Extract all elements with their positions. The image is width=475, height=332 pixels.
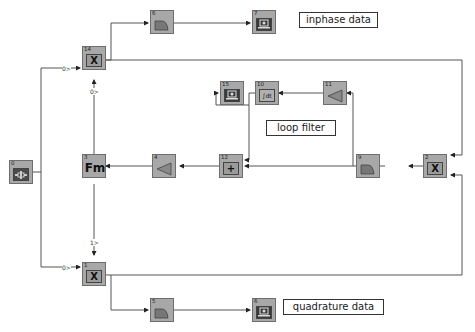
block-7-lowpass-filter[interactable]: 6 bbox=[150, 10, 174, 34]
port-label-1-top: 1> bbox=[90, 239, 99, 246]
integrator-icon: ∫dt bbox=[259, 89, 275, 102]
block-8-scope-sink[interactable]: 7 bbox=[252, 10, 276, 34]
lowpass-filter-icon bbox=[154, 306, 170, 319]
scope-icon bbox=[256, 18, 272, 31]
block-number: 14 bbox=[84, 46, 91, 53]
gain-triangle-icon bbox=[327, 89, 343, 102]
port-label-14-left: 0> bbox=[62, 65, 71, 72]
block-14-multiplier[interactable]: 14 X bbox=[82, 46, 106, 70]
block-11-gain[interactable]: 11 bbox=[323, 81, 347, 105]
quadrature-data-label: quadrature data bbox=[283, 299, 384, 315]
block-3-fm-modulator[interactable]: 3 Fm bbox=[82, 154, 106, 178]
multiply-icon: X bbox=[86, 270, 102, 283]
scope-icon bbox=[224, 89, 240, 102]
block-number: 6 bbox=[254, 298, 258, 305]
block-number: 5 bbox=[152, 298, 156, 305]
block-12-adder[interactable]: 12 + bbox=[219, 154, 243, 178]
block-number: 15 bbox=[222, 81, 229, 88]
fm-icon: Fm bbox=[85, 161, 105, 174]
block-0-source[interactable]: 0 bbox=[9, 160, 33, 184]
block-9-lowpass-filter[interactable]: 9 bbox=[356, 154, 380, 178]
adder-icon: + bbox=[223, 162, 239, 175]
lowpass-filter-icon bbox=[154, 18, 170, 31]
block-number: 9 bbox=[358, 154, 362, 161]
block-number: 10 bbox=[257, 81, 264, 88]
inphase-data-label: inphase data bbox=[299, 12, 378, 28]
gain-triangle-icon bbox=[156, 162, 172, 175]
block-2-multiplier[interactable]: 2 X bbox=[423, 154, 447, 178]
block-number: 12 bbox=[221, 154, 228, 161]
block-10-integrator[interactable]: 10 ∫dt bbox=[255, 81, 279, 105]
block-4-gain[interactable]: 4 bbox=[152, 154, 176, 178]
block-number: 2 bbox=[425, 154, 429, 161]
scope-icon bbox=[256, 306, 272, 319]
block-15-scope-sink[interactable]: 15 bbox=[220, 81, 244, 105]
multiply-icon: X bbox=[86, 54, 102, 67]
block-5-lowpass-filter[interactable]: 5 bbox=[150, 298, 174, 322]
block-number: 4 bbox=[154, 154, 158, 161]
block-number: 7 bbox=[254, 10, 258, 17]
lowpass-filter-icon bbox=[360, 162, 376, 175]
source-icon bbox=[13, 168, 29, 181]
multiply-icon: X bbox=[427, 162, 443, 175]
block-6-scope-sink[interactable]: 6 bbox=[252, 298, 276, 322]
port-label-14-bottom: 0> bbox=[90, 88, 99, 95]
port-label-1-left: 0> bbox=[62, 264, 71, 271]
block-number: 0 bbox=[11, 160, 15, 167]
block-number: 1 bbox=[84, 262, 88, 269]
loop-filter-label: loop filter bbox=[266, 120, 336, 136]
block-1-multiplier[interactable]: 1 X bbox=[82, 262, 106, 286]
block-number: 6 bbox=[152, 10, 156, 17]
block-number: 11 bbox=[325, 81, 332, 88]
